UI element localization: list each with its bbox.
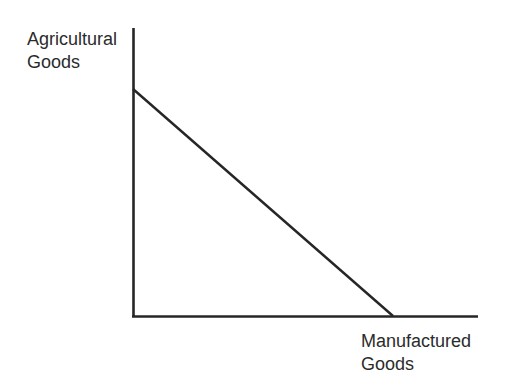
ppf-curve — [133, 89, 393, 316]
y-axis-label: Agricultural Goods — [27, 28, 117, 74]
x-axis-label: Manufactured Goods — [361, 330, 471, 376]
ppf-chart-figure: Agricultural Goods Manufactured Goods — [0, 0, 505, 386]
